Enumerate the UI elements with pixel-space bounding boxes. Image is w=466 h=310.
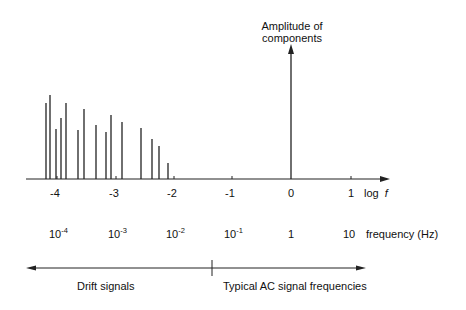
tick-label: -1 — [225, 187, 235, 199]
tick-label: -3 — [109, 187, 119, 199]
drift-signals-label: Drift signals — [77, 280, 135, 292]
frequency-label: 10-3 — [108, 226, 127, 240]
title-line-1: Amplitude of — [261, 20, 323, 32]
arrow-right-icon — [356, 266, 366, 271]
frequency-label: 10-4 — [49, 226, 68, 240]
arrow-up-icon — [288, 44, 294, 54]
frequency-label: 10-2 — [166, 226, 185, 240]
title-line-2: components — [262, 32, 322, 44]
axis-arrowhead-icon — [380, 176, 390, 182]
frequency-label: 10 — [343, 228, 355, 240]
diagram: Amplitude of components -4 -3 -2 -1 0 1 … — [0, 0, 466, 310]
tick-label: -4 — [50, 187, 60, 199]
tick-label: -2 — [167, 187, 177, 199]
frequency-unit-label: frequency (Hz) — [366, 228, 438, 240]
tick-label: 1 — [348, 187, 354, 199]
axis-label: log f — [364, 187, 389, 199]
ac-signals-label: Typical AC signal frequencies — [223, 280, 367, 292]
frequency-label: 10-1 — [224, 226, 243, 240]
arrow-left-icon — [26, 266, 36, 271]
frequency-label: 1 — [288, 228, 294, 240]
drift-component-bars — [46, 95, 168, 179]
tick-label: 0 — [288, 187, 294, 199]
